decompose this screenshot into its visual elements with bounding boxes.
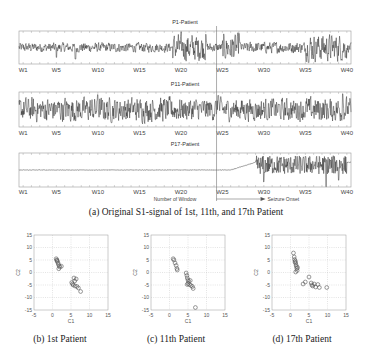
y-tick-label: 0 — [29, 269, 32, 275]
y-axis-label: C2 — [253, 269, 259, 276]
x-axis-label-number-of-window: Number of Window — [154, 196, 197, 202]
x-tick-label: -5 — [270, 312, 275, 318]
x-tick-label: W1 — [19, 67, 29, 73]
y-tick-label: -5 — [145, 282, 150, 288]
y-tick-label: -15 — [25, 307, 32, 313]
x-tick-label: W20 — [175, 130, 188, 136]
x-tick-label: W40 — [341, 67, 354, 73]
scatter-panel-d: -5051015-15-10-5051015C1C2 — [253, 232, 349, 324]
x-tick-label: W10 — [92, 67, 105, 73]
scatter-panel-b: -5051015-15-10-5051015C1C2 — [15, 232, 111, 324]
caption-b: (b) 1st Patient — [33, 334, 87, 345]
x-tick-label: W35 — [299, 67, 312, 73]
x-tick-label: 0 — [168, 312, 171, 318]
y-tick-label: 10 — [26, 244, 32, 250]
line-panel-1: P1-PatientW1W5W10W15W20W25W30W35W40 — [19, 19, 354, 73]
y-tick-label: 10 — [143, 244, 149, 250]
x-tick-label: W15 — [133, 67, 146, 73]
y-tick-label: -10 — [263, 294, 270, 300]
x-axis-label: C1 — [68, 318, 75, 324]
y-axis-label: C2 — [132, 269, 138, 276]
signal-line — [19, 32, 351, 63]
line-panel-3: P17-PatientW1W5W10W15W20W25W30W35W40 — [19, 141, 354, 195]
x-tick-label: W15 — [133, 189, 146, 195]
caption-d: (d) 17th Patient — [272, 334, 331, 345]
panel-title: P17-Patient — [171, 141, 200, 147]
y-tick-label: -15 — [142, 307, 149, 313]
x-tick-label: W35 — [299, 130, 312, 136]
x-tick-label: 0 — [289, 312, 292, 318]
x-tick-label: W40 — [341, 189, 354, 195]
x-tick-label: W10 — [92, 130, 105, 136]
x-tick-label: W5 — [52, 189, 62, 195]
y-tick-label: 0 — [146, 269, 149, 275]
x-tick-label: W1 — [19, 189, 29, 195]
line-panel-2: P11-PatientW1W5W10W15W20W25W30W35W40 — [19, 81, 354, 136]
panel-title: P11-Patient — [171, 81, 200, 87]
x-tick-label: 10 — [87, 312, 93, 318]
x-tick-label: -5 — [149, 312, 154, 318]
y-tick-label: 5 — [267, 257, 270, 263]
caption-a: (a) Original S1-signal of 1st, 11th, and… — [89, 207, 284, 218]
figure: P1-PatientW1W5W10W15W20W25W30W35W40P11-P… — [0, 0, 372, 354]
x-tick-label: W30 — [258, 130, 271, 136]
x-tick-label: W40 — [341, 130, 354, 136]
x-axis-label: C1 — [185, 318, 192, 324]
y-tick-label: 5 — [146, 257, 149, 263]
arrow-head — [261, 197, 266, 201]
seizure-onset-annotation: Seizure Onset — [268, 196, 300, 202]
x-tick-label: 15 — [222, 312, 228, 318]
panel-title: P1-Patient — [172, 19, 198, 25]
x-tick-label: W20 — [175, 67, 188, 73]
y-tick-label: 15 — [143, 232, 149, 238]
x-tick-label: 10 — [325, 312, 331, 318]
y-tick-label: 15 — [26, 232, 32, 238]
seizure-onset-arrow — [217, 197, 266, 201]
scatter-panels: -5051015-15-10-5051015C1C2-5051015-15-10… — [15, 232, 349, 324]
y-tick-label: -15 — [263, 307, 270, 313]
y-tick-label: 10 — [264, 244, 270, 250]
caption-c: (c) 11th Patient — [147, 334, 206, 345]
x-tick-label: 15 — [343, 312, 349, 318]
x-tick-label: -5 — [32, 312, 37, 318]
y-tick-label: -10 — [25, 294, 32, 300]
y-tick-label: 5 — [29, 257, 32, 263]
y-tick-label: 15 — [264, 232, 270, 238]
x-tick-label: 0 — [51, 312, 54, 318]
y-tick-label: -5 — [28, 282, 33, 288]
x-tick-label: W20 — [175, 189, 188, 195]
y-tick-label: 0 — [267, 269, 270, 275]
x-tick-label: W1 — [19, 130, 29, 136]
scatter-panel-c: -5051015-15-10-5051015C1C2 — [132, 232, 228, 324]
x-tick-label: 15 — [105, 312, 111, 318]
signal-line — [19, 156, 351, 187]
x-tick-label: W5 — [52, 130, 62, 136]
x-tick-label: W25 — [216, 130, 229, 136]
x-tick-label: W30 — [258, 189, 271, 195]
x-tick-label: W25 — [216, 67, 229, 73]
x-tick-label: W10 — [92, 189, 105, 195]
y-axis-label: C2 — [15, 269, 21, 276]
x-tick-label: W30 — [258, 67, 271, 73]
x-tick-label: W5 — [52, 67, 62, 73]
signal-line — [19, 94, 351, 124]
y-tick-label: -10 — [142, 294, 149, 300]
x-tick-label: 10 — [204, 312, 210, 318]
x-tick-label: W25 — [216, 189, 229, 195]
x-tick-label: W15 — [133, 130, 146, 136]
x-axis-label: C1 — [306, 318, 313, 324]
signal-panels: P1-PatientW1W5W10W15W20W25W30W35W40P11-P… — [19, 19, 354, 195]
x-tick-label: W35 — [299, 189, 312, 195]
y-tick-label: -5 — [266, 282, 271, 288]
